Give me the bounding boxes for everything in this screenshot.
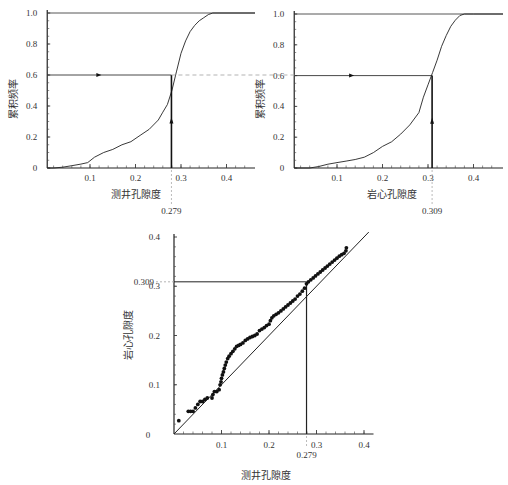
data-point [255, 332, 259, 336]
x-axis-title: 测井孔隙度 [241, 469, 291, 481]
x-tick-label: 0.1 [331, 173, 342, 183]
x-tick-label: 0.1 [84, 173, 95, 183]
x-axis-title: 岩心孔隙度 [367, 188, 417, 200]
y-tick-label: 0.2 [149, 331, 160, 341]
cdf-curve [294, 14, 503, 168]
cdf-curve [47, 13, 255, 168]
y-tick-label: 0.2 [26, 132, 37, 142]
x-tick-label: 0.2 [377, 173, 388, 183]
x-tick-label: 0.2 [263, 440, 274, 450]
data-point [303, 286, 307, 290]
arrow-right-icon [96, 73, 101, 77]
arrow-up-icon [169, 118, 173, 124]
y-axis-title: 累积频率 [254, 79, 266, 119]
data-point [267, 322, 271, 326]
qq-plot: 0.10.20.30.40.10.20.30.40测井孔隙度岩心孔隙度0.309… [122, 232, 374, 481]
data-point [194, 406, 198, 410]
data-point [222, 370, 226, 374]
x-tick-label: 0.3 [175, 173, 187, 183]
y-tick-label: 0.4 [26, 101, 38, 111]
data-point [210, 396, 214, 400]
y-tick-label: 0.6 [273, 71, 285, 81]
y-tick-label: 0.6 [26, 70, 38, 80]
x-tick-label: 0.3 [311, 440, 323, 450]
data-point [220, 376, 224, 380]
figure: 00.20.40.60.81.00.10.20.30.4测井孔隙度累积频率0.2… [0, 0, 508, 485]
identity-diagonal-line [174, 232, 369, 434]
cdf-core-plot: 00.20.40.60.81.00.10.20.30.4岩心孔隙度累积频率0.3… [254, 9, 503, 216]
data-point [224, 360, 228, 364]
x-tick-label: 0.4 [358, 440, 370, 450]
y-axis-title: 岩心孔隙度 [122, 310, 134, 360]
data-point [191, 409, 195, 413]
data-point [345, 246, 349, 250]
cdf-log-plot: 00.20.40.60.81.00.10.20.30.4测井孔隙度累积频率0.2… [7, 8, 255, 216]
y-reference-label: 0.309 [134, 277, 155, 287]
data-point [205, 396, 209, 400]
y-tick-label: 0.4 [273, 101, 285, 111]
y-tick-label: 0.2 [273, 132, 284, 142]
y-tick-label: 0.8 [273, 40, 285, 50]
origin-label: 0 [146, 430, 151, 440]
data-point [217, 388, 221, 392]
x-tick-label: 0.4 [221, 173, 233, 183]
x-reference-label: 0.279 [296, 450, 317, 460]
data-point [222, 367, 226, 371]
reference-value-label: 0.309 [422, 206, 443, 216]
data-point [293, 297, 297, 301]
arrow-right-icon [349, 74, 354, 78]
y-tick-label: 0 [33, 163, 38, 173]
x-tick-label: 0.1 [216, 440, 227, 450]
y-axis-title: 累积频率 [7, 79, 19, 119]
y-tick-label: 1.0 [26, 8, 38, 18]
y-tick-label: 0.4 [149, 232, 161, 242]
data-point [219, 380, 223, 384]
y-tick-label: 1.0 [273, 9, 285, 19]
y-tick-label: 0 [280, 163, 285, 173]
arrow-up-icon [430, 118, 434, 124]
x-tick-label: 0.4 [468, 173, 480, 183]
reference-value-label: 0.279 [161, 206, 182, 216]
data-point [177, 419, 181, 423]
y-tick-label: 0.8 [26, 39, 38, 49]
y-tick-label: 0.1 [149, 380, 160, 390]
x-tick-label: 0.2 [130, 173, 141, 183]
data-point [300, 289, 304, 293]
x-axis-title: 测井孔隙度 [111, 188, 161, 200]
